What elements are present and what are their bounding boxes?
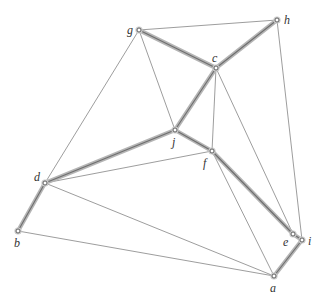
node-e [291, 232, 295, 236]
edge-c-e [216, 68, 293, 234]
nodes [14, 16, 305, 279]
node-label-g: g [127, 23, 133, 37]
edge-d-f [45, 151, 212, 183]
node-f [210, 149, 214, 153]
node-label-b: b [14, 236, 20, 250]
node-label-d: d [34, 170, 41, 184]
highlight-edge-c-h [216, 20, 277, 68]
highlight-edge-c-j [175, 68, 216, 130]
highlight-edge-d-b [18, 183, 45, 231]
node-a [272, 274, 276, 278]
node-labels: ghcjfdbeia [14, 13, 311, 295]
edge-b-a [18, 231, 274, 276]
node-label-f: f [203, 156, 208, 170]
highlight-edge-j-f [175, 130, 212, 151]
node-label-i: i [308, 234, 311, 248]
edge-f-a [212, 151, 274, 276]
node-b [16, 229, 20, 233]
highlight-edge-j-d [45, 130, 175, 183]
node-label-a: a [270, 281, 276, 295]
node-c [214, 66, 218, 70]
edge-d-a [45, 183, 274, 276]
highlighted-edges [18, 20, 302, 276]
node-d [43, 181, 47, 185]
node-h [275, 18, 279, 22]
highlight-edge-f-e [212, 151, 293, 234]
graph-diagram: ghcjfdbeia [0, 0, 326, 302]
node-label-h: h [284, 13, 290, 27]
edge-c-f [212, 68, 216, 151]
node-g [137, 28, 141, 32]
node-label-j: j [170, 135, 176, 149]
edge-g-d [45, 30, 139, 183]
node-i [300, 238, 304, 242]
edge-g-h [139, 20, 277, 30]
thin-edges [18, 20, 302, 276]
node-label-e: e [283, 235, 289, 249]
node-j [173, 128, 177, 132]
node-label-c: c [212, 51, 218, 65]
highlighted-edges-halo [18, 20, 302, 276]
